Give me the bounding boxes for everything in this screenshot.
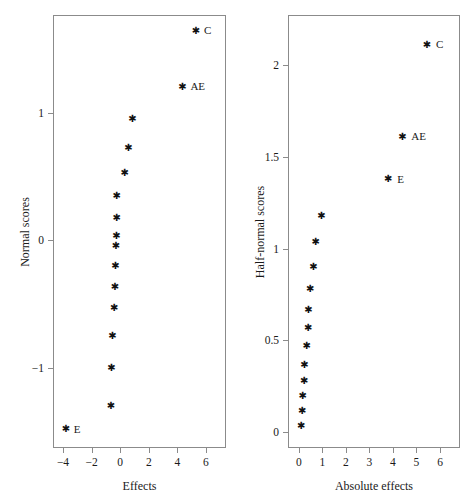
half-normal-xtick [299, 448, 300, 453]
half-normal-ytick-label: 2 [273, 59, 279, 71]
normal-xtick [63, 448, 64, 453]
normal-ytick-label: 1 [38, 107, 44, 119]
half-normal-xtick [369, 448, 370, 453]
normal-xtick [149, 448, 150, 453]
normal-xtick [206, 448, 207, 453]
half-normal-xtick-label: 6 [437, 456, 443, 468]
half-normal-xtick [322, 448, 323, 453]
normal-scores-plot-panel: −4−20246−101EffectsNormal scoresCAEE [0, 0, 236, 499]
half-normal-ytick-label: 1 [273, 243, 279, 255]
half-normal-xtick-label: 0 [296, 456, 302, 468]
normal-x-axis-title: Effects [123, 480, 157, 493]
half-normal-xtick-label: 5 [414, 456, 420, 468]
half-normal-ytick-label: 1.5 [265, 151, 279, 163]
normal-y-axis-title: Normal scores [19, 197, 32, 267]
half-normal-xtick [393, 448, 394, 453]
half-normal-scores-plot-panel: 012345600.511.52Absolute effectsHalf-nor… [236, 0, 472, 499]
normal-xtick-label: 0 [117, 456, 123, 468]
half-normal-xtick-label: 4 [390, 456, 396, 468]
normal-xtick-label: −2 [85, 456, 97, 468]
normal-ytick-label: −1 [32, 362, 44, 374]
normal-xtick-label: −4 [57, 456, 69, 468]
normal-xtick [177, 448, 178, 453]
half-normal-ytick-label: 0 [273, 426, 279, 438]
half-normal-xtick [346, 448, 347, 453]
half-normal-x-axis-title: Absolute effects [335, 480, 413, 493]
normal-xtick [92, 448, 93, 453]
half-normal-scores-plot-frame [288, 15, 460, 448]
normal-xtick [120, 448, 121, 453]
half-normal-xtick [416, 448, 417, 453]
figure-container: −4−20246−101EffectsNormal scoresCAEE 012… [0, 0, 472, 499]
half-normal-ytick-label: 0.5 [265, 334, 279, 346]
half-normal-xtick [440, 448, 441, 453]
half-normal-y-axis-title: Half-normal scores [254, 185, 267, 277]
normal-xtick-label: 2 [146, 456, 152, 468]
half-normal-xtick-label: 3 [367, 456, 373, 468]
half-normal-xtick-label: 2 [343, 456, 349, 468]
half-normal-xtick-label: 1 [319, 456, 325, 468]
normal-xtick-label: 6 [203, 456, 209, 468]
normal-ytick-label: 0 [38, 234, 44, 246]
normal-scores-plot-frame [53, 15, 226, 448]
normal-xtick-label: 4 [175, 456, 181, 468]
